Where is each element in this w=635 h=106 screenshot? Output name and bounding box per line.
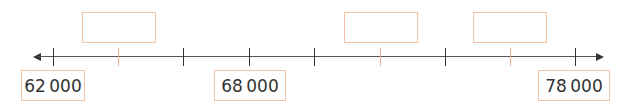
tick-68000: [249, 48, 250, 66]
left-arrow-icon: [33, 53, 41, 61]
tick-78000: [575, 48, 576, 66]
label-78000: 78 000: [538, 70, 610, 101]
answer-box-76000[interactable]: [473, 12, 547, 43]
tick-64000: [118, 48, 119, 66]
tick-66000: [183, 48, 184, 66]
tick-62000: [53, 48, 54, 66]
tick-72000: [380, 48, 381, 66]
tick-70000: [314, 48, 315, 66]
tick-74000: [445, 48, 446, 66]
axis-line: [38, 56, 600, 57]
right-arrow-icon: [596, 53, 604, 61]
answer-box-72000[interactable]: [344, 12, 418, 43]
answer-box-64000[interactable]: [82, 12, 156, 43]
tick-76000: [510, 48, 511, 66]
label-68000: 68 000: [214, 70, 286, 101]
label-62000: 62 000: [21, 70, 85, 101]
